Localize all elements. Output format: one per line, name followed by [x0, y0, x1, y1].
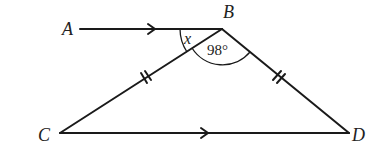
- point-label-c: C: [38, 125, 51, 145]
- point-label-a: A: [61, 19, 74, 39]
- angle-label-x: x: [183, 30, 191, 47]
- segment-bd: [222, 29, 349, 133]
- point-label-d: D: [351, 125, 365, 145]
- angle-label-98: 98°: [207, 42, 228, 58]
- point-label-b: B: [223, 2, 234, 22]
- isosceles-triangle-diagram: A B C D x 98°: [0, 0, 369, 166]
- segment-bc: [60, 29, 222, 133]
